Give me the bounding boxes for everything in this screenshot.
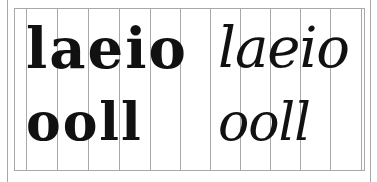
outer-right-guide <box>370 0 371 182</box>
grid-line <box>361 8 362 171</box>
frame-bottom <box>14 170 365 171</box>
frame-top <box>14 8 365 9</box>
right-row2-letters: ooll <box>218 96 310 148</box>
right-row1-letters: laeio <box>218 20 349 76</box>
left-row1-letters: laeio <box>26 20 188 76</box>
frame-left <box>14 8 15 171</box>
calligraphy-diagram: laeio ooll laeio ooll <box>0 0 377 182</box>
left-row2-letters: ooll <box>26 96 143 148</box>
outer-left-guide <box>7 0 8 182</box>
frame-right <box>364 8 365 171</box>
grid-line <box>210 8 211 171</box>
